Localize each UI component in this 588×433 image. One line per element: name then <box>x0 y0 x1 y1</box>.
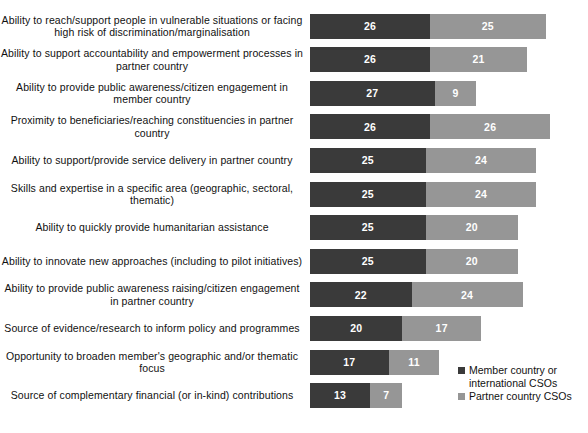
bar-group: 2621 <box>310 47 588 72</box>
bar-value-label: 17 <box>436 323 448 334</box>
bar-value-label: 21 <box>473 54 485 65</box>
chart-row: Ability to innovate new approaches (incl… <box>0 244 588 278</box>
legend-label: Partner country CSOs <box>469 390 588 403</box>
chart-row: Ability to quickly provide humanitarian … <box>0 211 588 245</box>
bar-value-label: 7 <box>383 390 389 401</box>
category-label: Proximity to beneficiaries/reaching cons… <box>0 114 310 139</box>
bar-value-label: 24 <box>475 189 487 200</box>
bar-group: 2520 <box>310 215 588 240</box>
bar-segment-member-country: 27 <box>310 81 435 106</box>
legend-item[interactable]: Member country or international CSOs <box>458 364 588 389</box>
bar-value-label: 25 <box>362 222 374 233</box>
bar-value-label: 17 <box>343 357 355 368</box>
bar-value-label: 26 <box>364 21 376 32</box>
bar-segment-partner-country: 9 <box>435 81 477 106</box>
bar-group: 2224 <box>310 282 588 307</box>
bar-segment-member-country: 25 <box>310 148 426 173</box>
legend-swatch-icon <box>458 367 465 374</box>
bar-group: 2017 <box>310 316 588 341</box>
category-label: Source of evidence/research to inform po… <box>0 322 310 335</box>
category-label: Ability to reach/support people in vulne… <box>0 14 310 39</box>
bar-value-label: 25 <box>362 189 374 200</box>
bar-value-label: 25 <box>482 21 494 32</box>
category-label: Skills and expertise in a specific area … <box>0 182 310 207</box>
category-label: Opportunity to broaden member's geograph… <box>0 350 310 375</box>
bar-value-label: 26 <box>364 54 376 65</box>
chart-row: Proximity to beneficiaries/reaching cons… <box>0 110 588 144</box>
bar-segment-partner-country: 11 <box>389 350 440 375</box>
bar-segment-partner-country: 21 <box>430 47 527 72</box>
bar-group: 2626 <box>310 114 588 139</box>
chart-row: Ability to provide public awareness rais… <box>0 278 588 312</box>
bar-group: 2524 <box>310 182 588 207</box>
bar-segment-member-country: 26 <box>310 114 430 139</box>
bar-value-label: 9 <box>453 88 459 99</box>
bar-value-label: 25 <box>362 155 374 166</box>
bar-value-label: 11 <box>408 357 420 368</box>
bar-segment-member-country: 13 <box>310 383 370 408</box>
bar-value-label: 27 <box>366 88 378 99</box>
bar-segment-member-country: 17 <box>310 350 389 375</box>
bar-value-label: 26 <box>484 122 496 133</box>
bar-value-label: 24 <box>475 155 487 166</box>
bar-segment-partner-country: 20 <box>426 249 518 274</box>
bar-segment-partner-country: 17 <box>402 316 481 341</box>
bar-group: 2524 <box>310 148 588 173</box>
category-label: Ability to provide public awareness rais… <box>0 282 310 307</box>
bar-value-label: 24 <box>461 290 473 301</box>
chart-row: Ability to support accountability and em… <box>0 43 588 77</box>
legend-item[interactable]: Partner country CSOs <box>458 390 588 403</box>
legend-label: Member country or international CSOs <box>469 364 588 389</box>
category-label: Ability to provide public awareness/citi… <box>0 81 310 106</box>
bar-segment-member-country: 25 <box>310 249 426 274</box>
category-label: Source of complementary financial (or in… <box>0 389 310 402</box>
bar-value-label: 20 <box>350 323 362 334</box>
bar-segment-member-country: 25 <box>310 215 426 240</box>
bar-segment-member-country: 20 <box>310 316 402 341</box>
bar-value-label: 26 <box>364 122 376 133</box>
bar-value-label: 22 <box>355 290 367 301</box>
bar-segment-partner-country: 7 <box>370 383 402 408</box>
legend-swatch-icon <box>458 393 465 400</box>
chart-row: Ability to support/provide service deliv… <box>0 143 588 177</box>
bar-segment-partner-country: 25 <box>430 14 546 39</box>
bar-group: 279 <box>310 81 588 106</box>
bar-segment-partner-country: 20 <box>426 215 518 240</box>
bar-value-label: 20 <box>466 222 478 233</box>
chart-legend: Member country or international CSOsPart… <box>458 364 588 404</box>
bar-segment-member-country: 22 <box>310 282 412 307</box>
bar-segment-partner-country: 24 <box>426 148 537 173</box>
bar-segment-member-country: 26 <box>310 14 430 39</box>
stacked-bar-chart: Ability to reach/support people in vulne… <box>0 0 588 433</box>
bar-group: 2520 <box>310 249 588 274</box>
bar-segment-partner-country: 24 <box>412 282 523 307</box>
bar-group: 2625 <box>310 14 588 39</box>
category-label: Ability to quickly provide humanitarian … <box>0 221 310 234</box>
chart-row: Ability to reach/support people in vulne… <box>0 9 588 43</box>
chart-row: Ability to provide public awareness/citi… <box>0 76 588 110</box>
category-label: Ability to innovate new approaches (incl… <box>0 255 310 268</box>
bar-value-label: 25 <box>362 256 374 267</box>
bar-segment-member-country: 25 <box>310 182 426 207</box>
bar-value-label: 13 <box>334 390 346 401</box>
bar-value-label: 20 <box>466 256 478 267</box>
bar-segment-partner-country: 24 <box>426 182 537 207</box>
chart-row: Skills and expertise in a specific area … <box>0 177 588 211</box>
chart-row: Source of evidence/research to inform po… <box>0 311 588 345</box>
bar-segment-partner-country: 26 <box>430 114 550 139</box>
category-label: Ability to support accountability and em… <box>0 47 310 72</box>
bar-segment-member-country: 26 <box>310 47 430 72</box>
category-label: Ability to support/provide service deliv… <box>0 154 310 167</box>
